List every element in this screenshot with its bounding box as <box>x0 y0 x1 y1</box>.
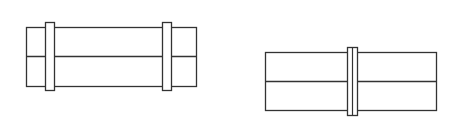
clamp-band <box>46 23 55 91</box>
pipe-with-two-clamps <box>27 23 197 91</box>
clamp-band <box>163 23 172 91</box>
diagram-canvas <box>0 0 456 124</box>
pipe-with-center-coupling <box>266 48 437 116</box>
